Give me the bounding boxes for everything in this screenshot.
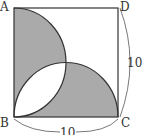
vertex-label-a: A <box>0 0 9 14</box>
vertex-label-c: C <box>121 116 130 130</box>
vertex-label-d: D <box>120 0 130 14</box>
geometry-diagram: A D B C 10 10 <box>0 0 142 135</box>
dimension-label-right: 10 <box>127 56 142 70</box>
dimension-label-bottom: 10 <box>60 126 75 135</box>
vertex-label-b: B <box>0 116 9 130</box>
